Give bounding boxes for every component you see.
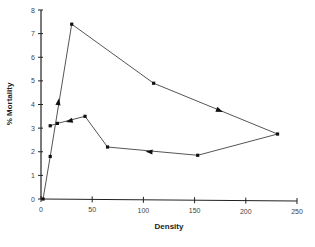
y-axis: 012345678 xyxy=(31,7,43,203)
direction-arrow-icon xyxy=(215,107,223,114)
y-tick-label: 0 xyxy=(31,196,35,203)
data-point xyxy=(70,23,73,26)
y-tick-label: 4 xyxy=(31,101,35,108)
direction-arrow-icon xyxy=(145,149,152,155)
chart: 012345678 050100150200250 Density % Mort… xyxy=(0,0,315,247)
x-tick-label: 50 xyxy=(88,206,96,213)
x-tick-label: 100 xyxy=(138,207,150,214)
data-point xyxy=(276,132,279,135)
data-point xyxy=(196,154,199,157)
x-tick-label: 200 xyxy=(240,208,252,215)
y-tick-label: 6 xyxy=(31,54,35,61)
series-line xyxy=(41,23,279,201)
data-point xyxy=(56,122,59,125)
data-point xyxy=(152,82,155,85)
y-tick-label: 1 xyxy=(31,172,35,179)
x-tick-label: 0 xyxy=(39,206,43,213)
data-point xyxy=(49,155,52,158)
y-axis-title: % Mortality xyxy=(5,82,14,125)
data-point xyxy=(83,115,86,118)
x-tick-label: 150 xyxy=(189,207,201,214)
x-axis: 050100150200250 xyxy=(39,196,303,215)
y-tick-label: 8 xyxy=(31,7,35,14)
y-tick-label: 2 xyxy=(31,148,35,155)
x-axis-title: Density xyxy=(155,222,184,231)
y-tick-label: 7 xyxy=(31,30,35,37)
data-point xyxy=(49,124,52,127)
direction-arrow-icon xyxy=(55,98,61,106)
data-point xyxy=(41,197,44,200)
y-tick-label: 3 xyxy=(31,125,35,132)
data-point xyxy=(106,145,109,148)
y-tick-label: 5 xyxy=(31,77,35,84)
x-tick-label: 250 xyxy=(291,208,303,215)
